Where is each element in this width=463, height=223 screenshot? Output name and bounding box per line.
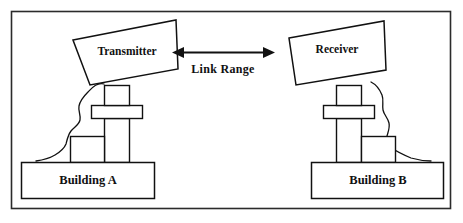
mast-crossbar-right — [324, 106, 375, 119]
mast-head-left — [105, 86, 130, 106]
mast-step-right — [362, 137, 396, 163]
figure-root: Transmitter Building A Receiver Building… — [0, 0, 463, 223]
mast-column-right — [337, 119, 362, 163]
link-range-label: Link Range — [191, 62, 255, 76]
transmitter-label: Transmitter — [97, 45, 156, 57]
arrow-head-right-icon — [263, 47, 275, 58]
mast-step-left — [71, 137, 105, 163]
mast-crossbar-left — [92, 106, 143, 119]
building-a-label: Building A — [59, 173, 116, 187]
link-range-diagram: Transmitter Building A Receiver Building… — [0, 0, 463, 223]
receiver-label: Receiver — [316, 43, 359, 55]
building-b-label: Building B — [349, 173, 406, 187]
mast-head-right — [337, 86, 362, 106]
mast-column-left — [105, 119, 130, 163]
